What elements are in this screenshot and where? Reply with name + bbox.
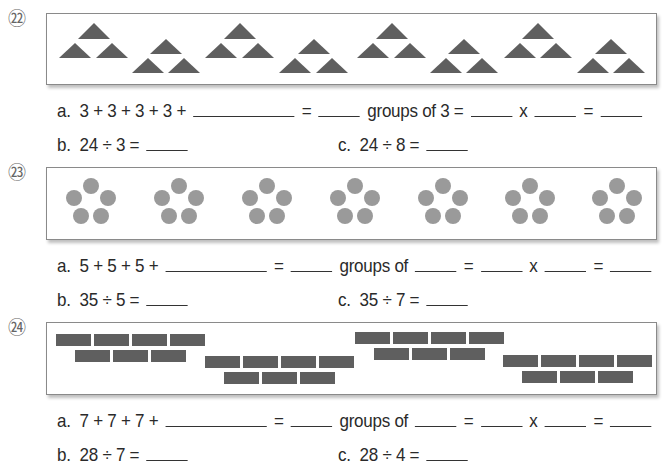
answer-blank-factor-1[interactable] [471, 115, 512, 117]
label-a: a. [57, 255, 71, 276]
answer-blank-factor-2[interactable] [545, 425, 586, 427]
equals-sign: = [274, 410, 284, 431]
answer-blank-factor-2[interactable] [535, 115, 576, 117]
repeated-sum: 5 + 5 + 5 + [80, 255, 159, 276]
answer-blank-b[interactable] [146, 304, 187, 306]
groups-text: groups of [340, 410, 408, 431]
problem-22-line-a: a. 3 + 3 + 3 + 3 + = groups of 3 = x = [57, 100, 644, 122]
division-expr: 28 ÷ 4 = [360, 444, 420, 465]
times-sign: x [529, 410, 537, 431]
problem-24-line-b: b. 28 ÷ 7 = [57, 444, 191, 466]
answer-blank-group-size[interactable] [415, 270, 456, 272]
problem-22-line-b: b. 24 ÷ 3 = [57, 134, 191, 156]
problem-22-line-c: c. 24 ÷ 8 = [338, 134, 471, 156]
answer-blank-factor-1[interactable] [481, 270, 522, 272]
answer-blank-groups[interactable] [291, 425, 332, 427]
times-sign: x [529, 255, 537, 276]
equals-sign: = [274, 255, 284, 276]
label-b: b. [57, 134, 71, 155]
equals-sign: = [593, 255, 603, 276]
problem-number-22: ㉒ [7, 9, 27, 29]
answer-blank-b[interactable] [146, 149, 187, 151]
label-b: b. [57, 289, 71, 310]
answer-blank-groups[interactable] [319, 115, 360, 117]
brick-groups-box [46, 322, 657, 395]
answer-blank-c[interactable] [426, 459, 467, 461]
equals-sign: = [593, 410, 603, 431]
label-c: c. [338, 289, 351, 310]
problem-24-line-c: c. 28 ÷ 4 = [338, 444, 471, 466]
problem-24-line-a: a. 7 + 7 + 7 + = groups of = x = [57, 410, 654, 432]
division-expr: 28 ÷ 7 = [80, 444, 140, 465]
triangle-groups-box [46, 13, 657, 85]
triangle-groups-illustration [47, 14, 656, 84]
groups-text: groups of [340, 255, 408, 276]
problem-number-24: ㉔ [7, 318, 27, 338]
answer-blank-group-size[interactable] [415, 425, 456, 427]
division-expr: 24 ÷ 3 = [80, 134, 140, 155]
groups-text: groups of 3 = [367, 100, 463, 121]
equals-sign: = [302, 100, 312, 121]
answer-blank-product[interactable] [610, 270, 651, 272]
problem-23-line-a: a. 5 + 5 + 5 + = groups of = x = [57, 255, 654, 277]
equals-sign: = [464, 255, 474, 276]
label-c: c. [338, 134, 351, 155]
label-a: a. [57, 410, 71, 431]
times-sign: x [519, 100, 527, 121]
label-c: c. [338, 444, 351, 465]
answer-blank-product[interactable] [600, 115, 641, 117]
answer-blank-sum[interactable] [166, 270, 267, 272]
division-expr: 35 ÷ 7 = [360, 289, 420, 310]
answer-blank-sum[interactable] [166, 425, 267, 427]
label-b: b. [57, 444, 71, 465]
equals-sign: = [583, 100, 593, 121]
answer-blank-b[interactable] [146, 459, 187, 461]
circle-groups-box [46, 167, 657, 240]
answer-blank-sum[interactable] [193, 115, 294, 117]
circle-groups-illustration [47, 168, 656, 239]
repeated-sum: 7 + 7 + 7 + [80, 410, 159, 431]
repeated-sum: 3 + 3 + 3 + 3 + [80, 100, 187, 121]
answer-blank-c[interactable] [426, 304, 467, 306]
problem-23-line-b: b. 35 ÷ 5 = [57, 289, 191, 311]
answer-blank-factor-1[interactable] [481, 425, 522, 427]
division-expr: 35 ÷ 5 = [80, 289, 140, 310]
answer-blank-product[interactable] [610, 425, 651, 427]
answer-blank-groups[interactable] [291, 270, 332, 272]
problem-23-line-c: c. 35 ÷ 7 = [338, 289, 471, 311]
answer-blank-factor-2[interactable] [545, 270, 586, 272]
brick-groups-illustration [47, 323, 656, 394]
label-a: a. [57, 100, 71, 121]
equals-sign: = [464, 410, 474, 431]
problem-number-23: ㉓ [7, 163, 27, 183]
answer-blank-c[interactable] [426, 149, 467, 151]
division-expr: 24 ÷ 8 = [360, 134, 420, 155]
